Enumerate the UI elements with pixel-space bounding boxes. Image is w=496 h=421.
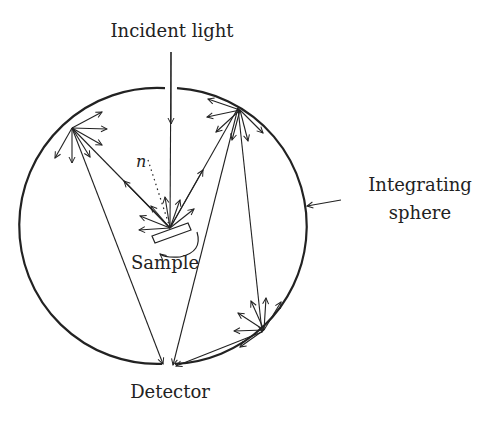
sphere-outline	[19, 88, 306, 364]
incident-beam	[170, 52, 171, 228]
detector-label: Detector	[110, 381, 230, 402]
normal-label: n	[136, 152, 146, 171]
incident-light-label: Incident light	[102, 20, 242, 41]
sphere-label: sphere	[355, 202, 485, 223]
scatter-fan-bottom-right	[234, 298, 281, 347]
surface-normal	[148, 160, 170, 228]
sample-label: Sample	[131, 252, 199, 273]
integrating-label: Integrating	[355, 174, 485, 195]
sphere-pointer-arrow	[307, 200, 341, 206]
